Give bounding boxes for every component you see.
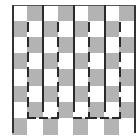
dashed-horizontal-line (88, 117, 121, 119)
solid-wall-line (42, 5, 44, 112)
solid-wall-line (73, 5, 75, 112)
dashed-horizontal-line (27, 117, 59, 119)
dashed-vertical-line (88, 22, 90, 118)
dashed-vertical-line (57, 22, 59, 118)
dashed-vertical-line (119, 22, 121, 118)
solid-wall-line (104, 5, 106, 112)
dashed-vertical-line (27, 22, 29, 118)
